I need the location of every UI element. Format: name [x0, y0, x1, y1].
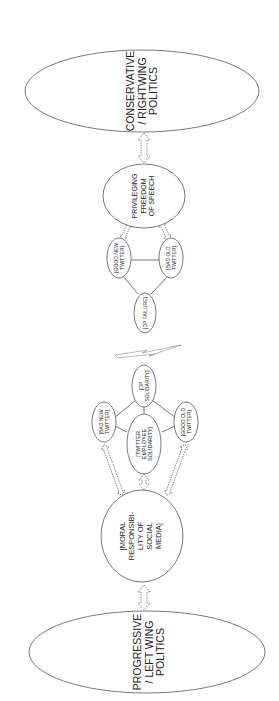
- svg-text:TWITTER]: TWITTER]: [186, 410, 192, 434]
- node-dp-failure: [DP FAILURE]: [134, 293, 156, 333]
- node-label-line: POLITICS: [147, 67, 159, 115]
- double-arrow-moral-progressive: [138, 585, 150, 610]
- svg-text:[DP FAILURE]: [DP FAILURE]: [142, 296, 148, 328]
- node-label-line: SOCIAL: [145, 522, 154, 550]
- svg-text:OF SPEECH: OF SPEECH: [148, 176, 155, 216]
- edge-badold-dpfailure: [151, 276, 168, 294]
- svg-text:/ RIGHTWING: / RIGHTWING: [136, 57, 148, 124]
- edge-dpsolidarity-badnew: [114, 400, 136, 418]
- node-label-line: TWITTER]: [171, 246, 177, 270]
- node-privileging-freedom-of-speech: PRIVILEGING FREEDOM OF SPEECH: [103, 164, 185, 228]
- node-progressive-politics: PROGRESSIVE / LEFT WING POLITICS: [29, 611, 265, 693]
- node-label-line: SOLIDARITY]: [144, 370, 150, 402]
- node-moral-responsibility-of-social-media: [MORAL RESPONSIBI- LITY OF SOCIAL MEDIA]: [101, 490, 183, 582]
- svg-text:POLITICS: POLITICS: [154, 628, 166, 676]
- node-twitter-employee-solidarity: [TWITTER EMPLOYEE SOLIDARITY]: [127, 414, 161, 474]
- svg-text:MEDIA]: MEDIA]: [154, 523, 163, 549]
- svg-text:POLITICS: POLITICS: [147, 67, 159, 115]
- svg-text:TWITTER]: TWITTER]: [104, 410, 110, 434]
- node-label-line: CONSERVATIVE: [124, 51, 136, 132]
- svg-text:[MORAL: [MORAL: [118, 522, 127, 551]
- edge-employee-badnew: [115, 426, 127, 432]
- node-label-line: [MORAL: [118, 522, 127, 551]
- node-label-line: POLITICS: [154, 628, 166, 676]
- node-label-line: / RIGHTWING: [136, 57, 148, 124]
- svg-text:RESPONSIBI-: RESPONSIBI-: [127, 511, 136, 560]
- node-bad-new-twitter: [BAD NEW TWITTER]: [92, 402, 116, 442]
- node-label-line: TWITTER]: [186, 410, 192, 434]
- edge-dpsolidarity-goodold: [152, 400, 176, 418]
- node-label-line: MEDIA]: [154, 523, 163, 549]
- node-label-line: TWITTER]: [119, 246, 125, 270]
- node-bad-old-twitter: [BAD OLD TWITTER]: [159, 238, 183, 278]
- lightning-break-icon: [115, 345, 181, 358]
- edge-goodnew-dpfailure: [123, 276, 138, 294]
- svg-text:TWITTER]: TWITTER]: [119, 246, 125, 270]
- node-label-line: / LEFT WING: [143, 621, 155, 684]
- edge-employee-goodold: [162, 426, 175, 432]
- double-arrow-employee-moral: [139, 474, 149, 490]
- node-dp-solidarity: [DP SOLIDARITY]: [132, 365, 156, 407]
- svg-text:TWITTER]: TWITTER]: [171, 246, 177, 270]
- svg-text:SOCIAL: SOCIAL: [145, 522, 154, 550]
- svg-text:PROGRESSIVE: PROGRESSIVE: [131, 614, 143, 690]
- svg-text:PRIVILEGING: PRIVILEGING: [131, 174, 138, 219]
- node-good-old-twitter: [GOOD OLD TWITTER]: [174, 402, 198, 442]
- double-arrow-badnew-moral: [100, 443, 126, 496]
- node-label-line: FREEDOM: [140, 178, 147, 213]
- node-label-line: PRIVILEGING: [131, 174, 138, 219]
- concept-diagram: CONSERVATIVE / RIGHTWING POLITICS PRIVIL…: [0, 0, 279, 701]
- svg-text:CONSERVATIVE: CONSERVATIVE: [124, 51, 136, 132]
- svg-text:SOLIDARITY]: SOLIDARITY]: [144, 370, 150, 402]
- node-good-new-twitter: [GOOD NEW TWITTER]: [107, 238, 131, 278]
- node-label-line: RESPONSIBI-: [127, 511, 136, 560]
- svg-text:SOLIDARITY]: SOLIDARITY]: [147, 426, 153, 461]
- node-conservative-politics: CONSERVATIVE / RIGHTWING POLITICS: [25, 50, 259, 132]
- double-arrow-goodold-moral: [163, 443, 189, 496]
- node-label-line: [DP FAILURE]: [142, 296, 148, 328]
- node-label-line: SOLIDARITY]: [147, 426, 153, 461]
- svg-text:/ LEFT WING: / LEFT WING: [143, 621, 155, 684]
- node-label-line: OF SPEECH: [148, 176, 155, 216]
- svg-text:FREEDOM: FREEDOM: [140, 178, 147, 213]
- svg-text:LITY OF: LITY OF: [136, 521, 145, 550]
- double-arrow-conservative-freedom: [138, 133, 150, 163]
- node-label-line: LITY OF: [136, 521, 145, 550]
- node-label-line: TWITTER]: [104, 410, 110, 434]
- node-label-line: PROGRESSIVE: [131, 614, 143, 690]
